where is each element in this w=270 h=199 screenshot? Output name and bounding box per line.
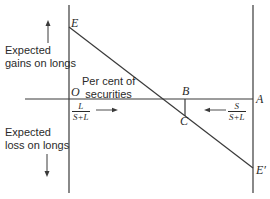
percent-label-line2: securities — [82, 88, 135, 101]
loss-label-line1: Expected — [5, 126, 69, 139]
point-label-b: B — [182, 85, 189, 98]
right-arrow-icon — [96, 108, 118, 112]
fraction-short-numerator: S — [228, 101, 246, 112]
fraction-long-numerator: L — [72, 101, 90, 112]
point-label-c: C — [180, 115, 188, 128]
gains-label-line2: gains on longs — [5, 57, 76, 70]
percent-label-line1: Per cent of — [82, 75, 135, 88]
point-label-e-prime: E′ — [256, 164, 266, 177]
up-arrow-icon — [46, 20, 51, 43]
point-label-a: A — [256, 93, 263, 106]
gains-label: Expected gains on longs — [5, 44, 76, 70]
percent-securities-label: Per cent of securities — [82, 75, 135, 101]
loss-label-line2: loss on longs — [5, 139, 69, 152]
gains-label-line1: Expected — [5, 44, 76, 57]
left-arrow-icon — [204, 108, 226, 112]
point-label-o: O — [71, 86, 80, 99]
fraction-long-denominator: S+L — [72, 112, 90, 122]
fraction-short-denominator: S+L — [228, 112, 246, 122]
point-label-e: E — [71, 17, 78, 30]
down-arrow-icon — [45, 154, 50, 177]
fraction-long-share: L S+L — [72, 101, 90, 122]
fraction-short-share: S S+L — [228, 101, 246, 122]
loss-label: Expected loss on longs — [5, 126, 69, 152]
